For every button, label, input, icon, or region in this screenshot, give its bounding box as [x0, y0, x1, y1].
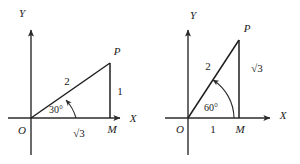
- right-base-label: 1: [210, 123, 216, 135]
- left-origin-label: O: [18, 124, 26, 136]
- left-y-axis-label: Y: [19, 7, 27, 19]
- left-hypotenuse-label: 2: [64, 75, 70, 87]
- left-height-label: 1: [117, 85, 123, 97]
- left-point-m-label: M: [106, 123, 117, 135]
- left-point-p-label: P: [113, 45, 121, 57]
- left-angle-arc-path: [66, 100, 76, 118]
- left-triangle: [31, 63, 110, 118]
- right-origin-label: O: [176, 123, 184, 135]
- math-figure-canvas: Y X O P M 2 1 √3 30° Y X O P M 2 √3 1 60…: [0, 0, 300, 164]
- left-hypotenuse: [31, 63, 110, 118]
- right-point-m-label: M: [234, 123, 245, 135]
- left-triangle-figure: Y X O P M 2 1 √3 30° Y X O P M 2 √3 1 60…: [0, 0, 300, 164]
- right-height-label: √3: [251, 62, 263, 74]
- right-point-p-label: P: [243, 22, 251, 34]
- left-base-label: √3: [73, 127, 85, 139]
- left-axes: [8, 30, 120, 155]
- left-x-axis-label: X: [129, 112, 138, 124]
- right-y-axis-label: Y: [190, 9, 198, 21]
- left-angle-label: 30°: [49, 104, 63, 115]
- right-x-axis-label: X: [279, 109, 288, 121]
- right-angle-label: 60°: [204, 102, 218, 113]
- left-angle-arc: [66, 100, 76, 118]
- right-axes: [165, 30, 270, 155]
- right-hypotenuse-label: 2: [205, 60, 211, 72]
